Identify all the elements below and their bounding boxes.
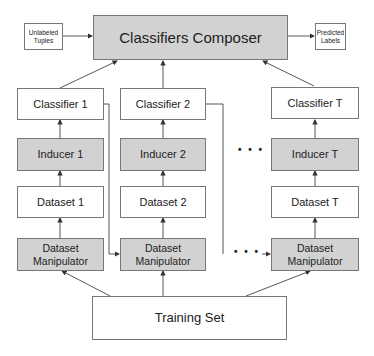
dataset-manipulator-t-label: Dataset Manipulator <box>285 242 345 266</box>
classifier-2-label: Classifier 2 <box>136 98 190 111</box>
training-set-label: Training Set <box>155 311 225 326</box>
ellipsis-bottom: • • • <box>234 246 260 257</box>
dataset-manipulator-1-label: Dataset Manipulator <box>31 242 91 266</box>
inducer-2-box: Inducer 2 <box>120 138 206 171</box>
inducer-1-box: Inducer 1 <box>17 138 104 171</box>
inducer-t-box: Inducer T <box>271 138 359 171</box>
classifier-1-label: Classifier 1 <box>33 98 87 111</box>
classifiers-composer-box: Classifiers Composer <box>93 15 288 60</box>
inducer-t-label: Inducer T <box>292 148 338 161</box>
dataset-1-label: Dataset 1 <box>37 196 84 209</box>
classifier-2-box: Classifier 2 <box>120 88 206 120</box>
predicted-labels-label: Predicted Labels <box>316 29 345 44</box>
dataset-manipulator-2-label: Dataset Manipulator <box>133 242 193 266</box>
dataset-2-label: Dataset 2 <box>139 196 186 209</box>
inducer-2-label: Inducer 2 <box>140 148 186 161</box>
dataset-1-box: Dataset 1 <box>17 186 104 218</box>
classifier-1-box: Classifier 1 <box>17 88 104 120</box>
dataset-t-box: Dataset T <box>271 186 359 218</box>
dataset-t-label: Dataset T <box>291 196 339 209</box>
dataset-manipulator-t-box: Dataset Manipulator <box>271 238 359 271</box>
training-set-box: Training Set <box>92 296 287 340</box>
dataset-2-box: Dataset 2 <box>120 186 206 218</box>
classifier-t-box: Classifier T <box>271 87 359 119</box>
classifiers-composer-label: Classifiers Composer <box>119 29 262 46</box>
unlabeled-tuples-box: Unlabeled Tuples <box>24 23 63 50</box>
ellipsis-middle: • • • <box>238 144 264 155</box>
predicted-labels-box: Predicted Labels <box>315 23 346 50</box>
dataset-manipulator-1-box: Dataset Manipulator <box>17 238 104 271</box>
unlabeled-tuples-label: Unlabeled Tuples <box>25 29 62 44</box>
dataset-manipulator-2-box: Dataset Manipulator <box>120 238 206 271</box>
classifier-t-label: Classifier T <box>288 97 343 110</box>
inducer-1-label: Inducer 1 <box>38 148 84 161</box>
